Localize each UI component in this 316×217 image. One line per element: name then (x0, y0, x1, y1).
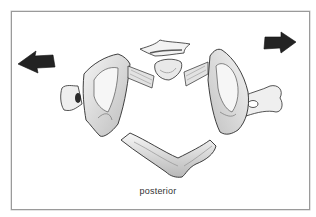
left-arrow-icon (18, 51, 55, 73)
atlas-exploded-illustration (0, 0, 316, 217)
caption-posterior: posterior (0, 186, 316, 196)
anterior-arch (140, 40, 190, 56)
right-lateral-mass (184, 49, 282, 134)
right-arrow-icon (264, 32, 296, 53)
dens-facet (155, 59, 182, 80)
left-lateral-mass (61, 54, 154, 136)
posterior-arch (121, 133, 216, 177)
